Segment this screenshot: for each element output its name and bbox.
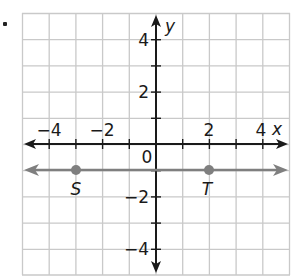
coordinate-plane: −4 −2 2 4 x 4 2 −2 −4 y 0 S T xyxy=(0,0,295,278)
point-t-label: T xyxy=(202,179,214,199)
x-tick-label: −2 xyxy=(89,120,114,140)
x-tick-labels: −4 −2 2 4 x xyxy=(36,119,283,140)
point-s xyxy=(71,165,81,175)
y-tick-label: 4 xyxy=(138,30,149,50)
x-axis-label: x xyxy=(271,119,283,139)
y-tick-label: 2 xyxy=(138,82,149,102)
point-t xyxy=(204,165,214,175)
x-tick-label: −4 xyxy=(36,120,61,140)
x-tick-label: 4 xyxy=(256,120,267,140)
x-tick-label: 2 xyxy=(204,120,215,140)
y-tick-label: −2 xyxy=(124,187,149,207)
origin-label: 0 xyxy=(142,147,153,167)
point-s-label: S xyxy=(71,179,82,199)
y-axis-label: y xyxy=(164,16,176,36)
y-tick-label: −4 xyxy=(124,239,149,259)
